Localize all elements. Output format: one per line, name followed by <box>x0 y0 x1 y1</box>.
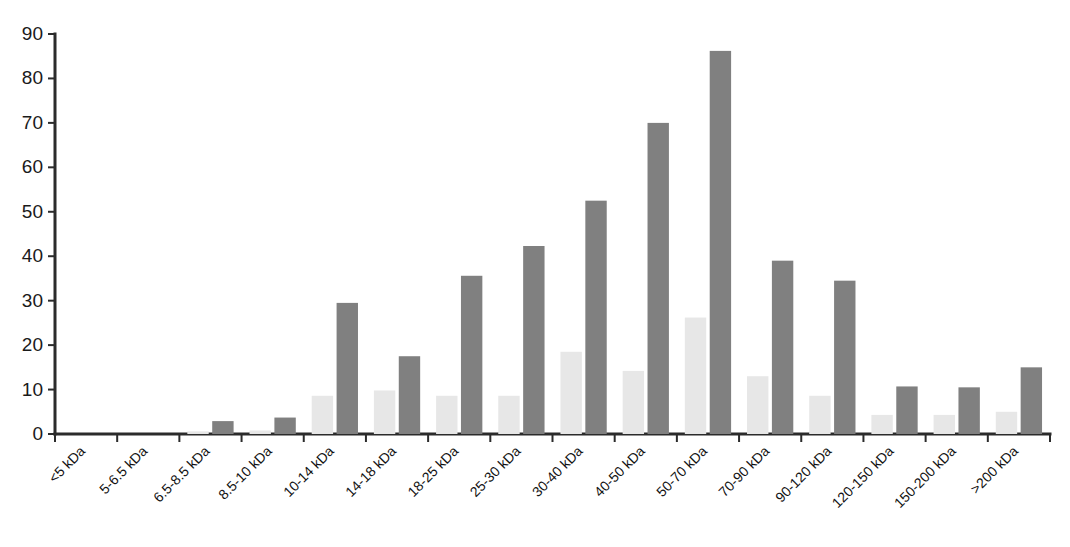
x-axis-category-label: 5-6.5 kDa <box>96 443 150 497</box>
bar-series-light-5 <box>374 390 395 434</box>
y-tick-label: 60 <box>22 156 43 177</box>
bar-series-light-9 <box>623 371 644 434</box>
bar-series-light-6 <box>436 396 457 434</box>
x-axis-category-label: 90-120 kDa <box>772 443 835 506</box>
bar-series-dark-14 <box>958 387 979 434</box>
y-tick-label: 80 <box>22 67 43 88</box>
x-axis-category-label: 50-70 kDa <box>653 443 710 500</box>
bar-series-dark-12 <box>834 281 855 434</box>
y-tick-label: 30 <box>22 290 43 311</box>
y-tick-label: 50 <box>22 201 43 222</box>
bar-series-dark-8 <box>585 201 606 434</box>
bar-series-light-14 <box>934 415 955 434</box>
x-axis-group <box>55 434 1050 442</box>
bar-series-dark-7 <box>523 246 544 434</box>
y-tick-label: 10 <box>22 379 43 400</box>
x-axis-category-label: 18-25 kDa <box>404 443 461 500</box>
x-axis-category-label: 40-50 kDa <box>591 443 648 500</box>
bar-series-light-2 <box>187 431 208 434</box>
x-axis-category-label: 8.5-10 kDa <box>215 443 275 503</box>
y-tick-label: 20 <box>22 334 43 355</box>
x-axis-category-label: >200 kDa <box>967 443 1021 497</box>
x-axis-category-label: <5 kDa <box>45 443 88 486</box>
bar-series-dark-11 <box>772 261 793 434</box>
bar-series-light-10 <box>685 318 706 434</box>
bar-series-dark-5 <box>399 356 420 434</box>
x-axis-category-label: 120-150 kDa <box>829 443 897 511</box>
x-axis-category-label: 70-90 kDa <box>715 443 772 500</box>
bars-group <box>187 51 1042 434</box>
x-axis-category-label: 14-18 kDa <box>342 443 399 500</box>
bar-series-dark-15 <box>1021 367 1042 434</box>
y-tick-label: 0 <box>32 423 43 444</box>
bar-series-light-4 <box>312 396 333 434</box>
y-tick-label: 40 <box>22 245 43 266</box>
bar-series-dark-2 <box>212 421 233 434</box>
y-tick-label: 70 <box>22 112 43 133</box>
x-axis-category-label: 25-30 kDa <box>467 443 524 500</box>
x-axis-category-label: 150-200 kDa <box>891 443 959 511</box>
x-axis-category-label: 30-40 kDa <box>529 443 586 500</box>
bar-series-dark-3 <box>274 418 295 434</box>
bar-series-light-3 <box>250 430 271 434</box>
y-tick-label: 90 <box>22 23 43 44</box>
bar-series-dark-6 <box>461 276 482 434</box>
bar-series-dark-4 <box>337 303 358 434</box>
bar-series-light-7 <box>498 396 519 434</box>
bar-series-light-12 <box>809 396 830 434</box>
x-axis-category-label: 6.5-8.5 kDa <box>150 443 213 506</box>
bar-series-light-11 <box>747 376 768 434</box>
y-tick-group: 0102030405060708090 <box>22 23 55 444</box>
chart-container: 0102030405060708090 <5 kDa5-6.5 kDa6.5-8… <box>0 0 1070 547</box>
bar-series-light-8 <box>560 352 581 434</box>
bar-series-light-15 <box>996 412 1017 434</box>
bar-chart-svg: 0102030405060708090 <5 kDa5-6.5 kDa6.5-8… <box>0 0 1070 547</box>
bar-series-dark-13 <box>896 386 917 434</box>
x-axis-category-label: 10-14 kDa <box>280 443 337 500</box>
bar-series-dark-10 <box>710 51 731 434</box>
bar-series-light-13 <box>871 415 892 434</box>
y-axis-group: 0102030405060708090 <box>22 23 55 444</box>
bar-series-dark-9 <box>648 123 669 434</box>
x-axis-label-group: <5 kDa5-6.5 kDa6.5-8.5 kDa8.5-10 kDa10-1… <box>45 443 1021 511</box>
